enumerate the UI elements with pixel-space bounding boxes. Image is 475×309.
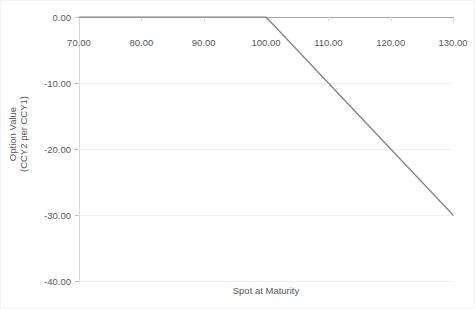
plot-area: 70.00 80.00 90.00 100.00 110.00 120.00 1… [79, 17, 453, 281]
gridline--40 [79, 281, 453, 282]
x-axis-title: Spot at Maturity [79, 285, 453, 296]
series-layer [79, 17, 453, 281]
y-tick-mark--40 [75, 281, 79, 282]
y-axis-title-line-2: (CCY2 per CCY1) [18, 69, 29, 199]
y-tick-label-1: -10.00 [44, 78, 71, 89]
series-line-option-value [79, 17, 453, 215]
y-tick-label-4: -40.00 [44, 276, 71, 287]
y-tick-label-3: -30.00 [44, 210, 71, 221]
y-axis-title: Option Value (CCY2 per CCY1) [7, 69, 29, 199]
y-tick-label-0: 0.00 [53, 12, 72, 23]
x-tick-mark-130 [453, 17, 454, 21]
y-tick-label-2: -20.00 [44, 144, 71, 155]
chart-container: 0.00 -10.00 -20.00 -30.00 -40.00 70.00 8… [0, 0, 475, 309]
y-axis-title-line-1: Option Value [7, 69, 18, 199]
